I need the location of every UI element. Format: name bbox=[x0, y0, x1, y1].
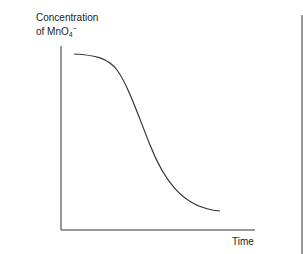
concentration-curve bbox=[74, 54, 220, 211]
chart-plot-area bbox=[0, 0, 303, 254]
x-axis-label: Time bbox=[232, 236, 254, 247]
